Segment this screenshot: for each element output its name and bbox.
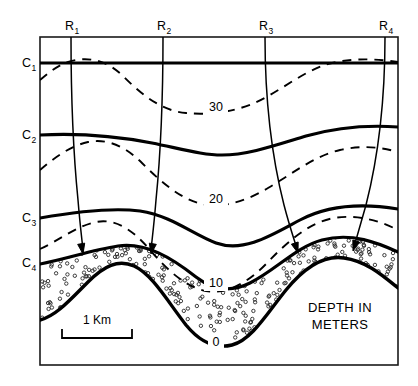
horizon-label-C2: C2: [22, 128, 37, 145]
horizon-label-group: C1C2C3C4: [22, 56, 37, 273]
ray-label-R3: R3: [259, 19, 274, 36]
depth-caption-line-1: DEPTH IN: [308, 300, 372, 315]
ray-label-group: R1R2R3R4: [65, 19, 394, 36]
horizon-label-C3: C3: [22, 211, 37, 228]
contour-label-10: 10: [209, 276, 223, 290]
horizon-label-C1: C1: [22, 56, 37, 73]
contour-label-20: 20: [209, 192, 223, 206]
ray-label-R2: R2: [157, 19, 172, 36]
contour-label-0: 0: [213, 335, 220, 349]
horizon-label-C4: C4: [22, 256, 37, 273]
depth-caption-line-2: METERS: [312, 317, 369, 332]
contour-label-30: 30: [209, 100, 223, 114]
ray-label-R1: R1: [65, 19, 80, 36]
geological-cross-section-figure: 3020100 R1R2R3R4 C1C2C3C4 1 Km DEPTH IN …: [0, 0, 418, 386]
cross-section-svg: 3020100 R1R2R3R4 C1C2C3C4 1 Km DEPTH IN …: [0, 0, 418, 386]
scale-bar-label: 1 Km: [83, 313, 111, 327]
ray-label-R4: R4: [379, 19, 394, 36]
